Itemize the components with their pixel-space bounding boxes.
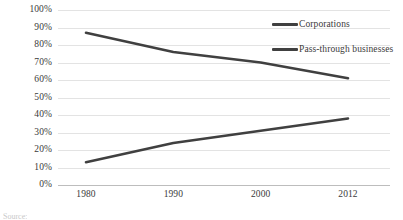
legend-label: Corporations [299,20,350,30]
legend-item[interactable]: Pass-through businesses [272,37,403,62]
x-axis-tick-label: 2000 [251,190,270,200]
legend-label: Pass-through businesses [299,45,393,55]
line-chart: 0%10%20%30%40%50%60%70%80%90%100% 198019… [0,0,403,220]
legend-line-swatch-icon [272,23,298,26]
legend: CorporationsPass-through businesses [272,12,403,62]
legend-line-swatch-icon [272,48,298,51]
y-axis: 0%10%20%30%40%50%60%70%80%90%100% [0,10,52,185]
x-axis-tick-label: 1980 [76,190,95,200]
y-axis-tick-label: 50% [0,93,52,103]
y-axis-tick-label: 40% [0,110,52,120]
axis-line-zero [58,185,390,186]
y-axis-tick-label: 70% [0,58,52,68]
y-axis-tick-label: 30% [0,128,52,138]
series-line [86,119,348,163]
y-axis-tick-label: 80% [0,40,52,50]
x-axis: 1980199020002012 [58,190,390,206]
x-axis-tick-label: 2012 [338,190,357,200]
legend-item[interactable]: Corporations [272,12,403,37]
y-axis-tick-label: 60% [0,75,52,85]
y-axis-tick-label: 20% [0,145,52,155]
x-axis-tick-label: 1990 [164,190,183,200]
source-caption: Source: [3,213,27,220]
y-axis-tick-label: 0% [0,180,52,190]
y-axis-tick-label: 100% [0,5,52,15]
y-axis-tick-label: 90% [0,23,52,33]
y-axis-tick-label: 10% [0,163,52,173]
